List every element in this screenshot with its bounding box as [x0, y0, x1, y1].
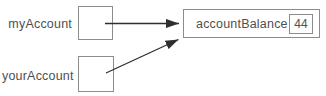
- accountbalance-object-box: accountBalance 44: [183, 9, 320, 38]
- accountbalance-label: accountBalance: [196, 17, 288, 31]
- youraccount-arrow: [106, 40, 179, 74]
- myaccount-reference-box: [78, 6, 113, 40]
- accountbalance-value: 44: [294, 17, 307, 31]
- accountbalance-value-box: 44: [289, 14, 313, 34]
- youraccount-reference-box: [78, 56, 114, 92]
- reference-variable-diagram: myAccount yourAccount accountBalance 44: [0, 0, 326, 96]
- myaccount-label: myAccount: [8, 17, 72, 31]
- youraccount-label: yourAccount: [2, 69, 73, 83]
